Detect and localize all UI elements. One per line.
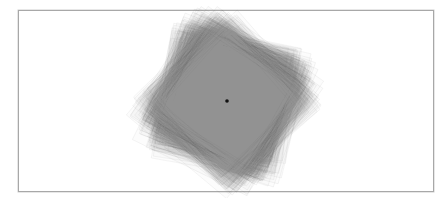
generative-square-artwork — [0, 0, 438, 198]
rotated-squares-group — [126, 6, 323, 198]
center-dot — [225, 99, 229, 103]
